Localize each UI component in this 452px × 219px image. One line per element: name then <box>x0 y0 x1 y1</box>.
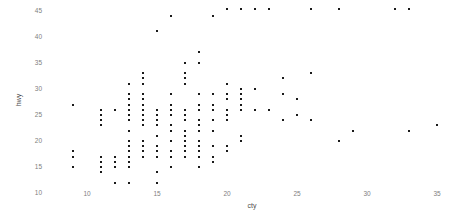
data-point <box>170 15 172 17</box>
data-point <box>128 130 130 132</box>
data-point <box>226 109 228 111</box>
data-point <box>198 156 200 158</box>
data-point <box>436 124 438 126</box>
data-point <box>268 8 270 10</box>
data-point <box>170 124 172 126</box>
data-point <box>72 150 74 152</box>
data-point <box>226 93 228 95</box>
data-point <box>128 150 130 152</box>
data-point <box>408 130 410 132</box>
data-point <box>212 156 214 158</box>
data-point <box>128 145 130 147</box>
data-point <box>240 109 242 111</box>
data-point <box>198 109 200 111</box>
data-point <box>184 83 186 85</box>
data-point <box>114 161 116 163</box>
data-point <box>114 182 116 184</box>
data-point <box>198 140 200 142</box>
data-point <box>282 93 284 95</box>
data-point <box>212 93 214 95</box>
data-point <box>72 166 74 168</box>
data-point <box>114 166 116 168</box>
data-point <box>212 15 214 17</box>
data-point <box>142 140 144 142</box>
y-tick-label: 20 <box>26 138 42 145</box>
data-point <box>114 156 116 158</box>
data-point <box>170 93 172 95</box>
data-point <box>310 72 312 74</box>
data-point <box>128 114 130 116</box>
data-point <box>226 119 228 121</box>
data-point <box>226 98 228 100</box>
data-point <box>226 150 228 152</box>
data-point <box>156 109 158 111</box>
data-point <box>128 161 130 163</box>
data-point <box>114 109 116 111</box>
scatter-plot-figure: hwy 1015202530354045 101520253035 cty <box>0 0 452 219</box>
data-point <box>226 83 228 85</box>
data-point <box>156 124 158 126</box>
data-point <box>156 156 158 158</box>
data-point <box>296 98 298 100</box>
data-point <box>212 130 214 132</box>
data-point <box>100 109 102 111</box>
data-point <box>184 119 186 121</box>
data-point <box>212 161 214 163</box>
y-axis-title: hwy <box>15 94 22 106</box>
data-point <box>352 130 354 132</box>
data-point <box>184 135 186 137</box>
data-point <box>128 93 130 95</box>
data-point <box>142 114 144 116</box>
data-point <box>212 109 214 111</box>
data-point <box>226 114 228 116</box>
data-point <box>184 150 186 152</box>
data-point <box>240 140 242 142</box>
data-point <box>128 83 130 85</box>
data-point <box>198 119 200 121</box>
data-point <box>100 124 102 126</box>
data-point <box>142 72 144 74</box>
data-point <box>296 114 298 116</box>
data-point <box>142 145 144 147</box>
data-point <box>100 166 102 168</box>
data-point <box>198 166 200 168</box>
x-tick-label: 20 <box>223 191 230 198</box>
data-point <box>142 150 144 152</box>
y-tick-label: 45 <box>26 7 42 14</box>
y-tick-label: 40 <box>26 33 42 40</box>
data-point <box>128 140 130 142</box>
data-point <box>240 93 242 95</box>
x-tick-label: 35 <box>433 191 440 198</box>
data-point <box>184 114 186 116</box>
data-point <box>240 104 242 106</box>
data-point <box>198 150 200 152</box>
data-point <box>198 130 200 132</box>
data-point <box>240 98 242 100</box>
data-point <box>198 145 200 147</box>
data-point <box>170 114 172 116</box>
data-point <box>198 124 200 126</box>
data-point <box>100 119 102 121</box>
plot-panel <box>52 8 444 188</box>
data-point <box>310 119 312 121</box>
data-point <box>408 8 410 10</box>
data-point <box>212 119 214 121</box>
data-point <box>142 156 144 158</box>
data-point <box>100 156 102 158</box>
data-point <box>142 83 144 85</box>
y-tick-label: 30 <box>26 86 42 93</box>
data-point <box>128 104 130 106</box>
data-point <box>184 130 186 132</box>
data-point <box>240 135 242 137</box>
data-point <box>156 114 158 116</box>
data-point <box>128 166 130 168</box>
data-point <box>156 119 158 121</box>
data-point <box>156 135 158 137</box>
y-tick-label: 25 <box>26 112 42 119</box>
data-point <box>212 104 214 106</box>
x-tick-label: 25 <box>293 191 300 198</box>
data-point <box>72 104 74 106</box>
data-point <box>142 109 144 111</box>
data-point <box>170 150 172 152</box>
x-tick-label: 10 <box>83 191 90 198</box>
